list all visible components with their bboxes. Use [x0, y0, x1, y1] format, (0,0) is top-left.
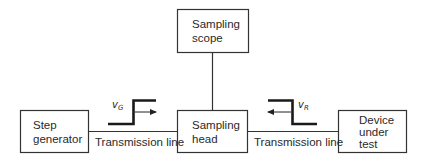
block-sampling-head: Sampling head [178, 111, 248, 153]
sampling-head-label-line1: Sampling [192, 119, 240, 131]
step-generator-label-line1: Step [33, 119, 57, 131]
device-label-line1: Device [359, 114, 394, 126]
diagram-canvas: Sampling scope Step generator Sampling h… [0, 0, 422, 162]
sampling-head-label-line2: head [192, 133, 218, 145]
device-label-line2: under [359, 126, 389, 138]
block-sampling-scope: Sampling scope [178, 10, 249, 53]
reflected-step-waveform: vR [268, 99, 317, 124]
incident-step-waveform: vG [108, 99, 156, 124]
sampling-scope-label-line2: scope [192, 32, 223, 44]
block-step-generator: Step generator [21, 111, 89, 153]
block-device-under-test: Device under test [339, 111, 407, 153]
transmission-line-left-label: Transmission line [95, 136, 184, 148]
step-generator-label-line2: generator [33, 133, 82, 145]
vg-label: vG [112, 99, 124, 112]
vr-label: vR [298, 99, 309, 112]
device-label-line3: test [359, 138, 378, 150]
transmission-line-right-label: Transmission line [254, 136, 343, 148]
sampling-scope-label-line1: Sampling [192, 18, 240, 30]
